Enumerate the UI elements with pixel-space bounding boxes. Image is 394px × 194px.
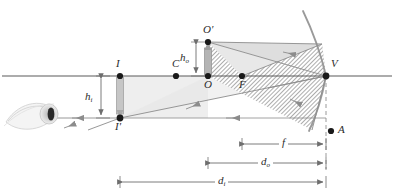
label-O: O — [204, 79, 212, 90]
image-distance-base: d — [218, 174, 224, 186]
label-F: F — [239, 79, 246, 90]
label-image-height: hi — [85, 91, 92, 102]
label-C: C — [172, 58, 179, 69]
label-object-height: ho — [180, 52, 189, 63]
point-V — [323, 73, 330, 80]
observer-eye — [4, 103, 58, 129]
object-height-base: h — [180, 51, 186, 63]
point-C — [173, 73, 179, 79]
label-I: I — [116, 58, 120, 69]
label-A: A — [338, 124, 345, 135]
point-O-prime — [205, 39, 211, 45]
object-distance-sub: o — [267, 161, 271, 169]
point-A — [328, 128, 334, 134]
object-distance-base: d — [261, 155, 267, 167]
object-height-sub: o — [186, 57, 190, 65]
label-object-distance: do — [258, 156, 273, 167]
image-arrow — [117, 76, 124, 118]
label-V: V — [331, 58, 338, 69]
label-O-prime: O′ — [203, 24, 213, 35]
image-height-dimension — [96, 76, 110, 118]
label-image-distance: di — [215, 175, 228, 186]
object-height-dimension — [191, 42, 205, 76]
ray-diagram-figure: I I′ C O′ O F V A ho hi f do di — [0, 0, 394, 194]
image-height-base: h — [85, 90, 91, 102]
label-I-prime: I′ — [115, 121, 121, 132]
label-focal-length: f — [279, 137, 288, 148]
focal-length-base: f — [282, 136, 285, 148]
point-I — [117, 73, 123, 79]
